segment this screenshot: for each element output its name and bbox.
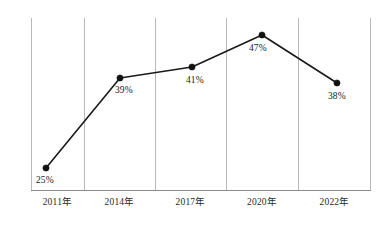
data-label: 47% (249, 44, 267, 54)
data-point-marker (117, 75, 123, 81)
x-axis-tick-label: 2011年 (31, 198, 84, 208)
data-point-marker (43, 165, 49, 171)
gridlines-group (32, 18, 371, 190)
x-axis-tick-label: 2014年 (84, 198, 155, 208)
data-point-marker (189, 64, 195, 70)
data-point-marker (334, 80, 340, 86)
x-axis-tick-label: 2022年 (298, 198, 371, 208)
data-point-marker (259, 32, 265, 38)
data-label: 25% (36, 176, 54, 186)
data-series (43, 32, 340, 171)
x-axis-tick-label: 2017年 (155, 198, 226, 208)
line-chart: 25% 39% 41% 47% 38% 2011年 2014年 2017年 20… (0, 0, 380, 225)
chart-plot-area (0, 0, 380, 225)
data-label: 41% (186, 76, 204, 86)
data-label: 38% (328, 92, 346, 102)
data-label: 39% (115, 86, 133, 96)
x-axis-tick-label: 2020年 (226, 198, 298, 208)
series-line-path (46, 35, 337, 168)
